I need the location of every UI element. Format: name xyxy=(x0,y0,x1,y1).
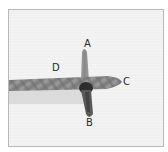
strand-d-to-c xyxy=(9,76,122,91)
label-c: C xyxy=(123,77,130,87)
photo-frame: A B C D xyxy=(8,9,164,147)
label-b: B xyxy=(86,118,93,128)
label-d: D xyxy=(52,63,60,73)
loose-fibre-band xyxy=(9,90,89,104)
strand-a xyxy=(81,49,89,80)
label-a: A xyxy=(84,39,91,49)
